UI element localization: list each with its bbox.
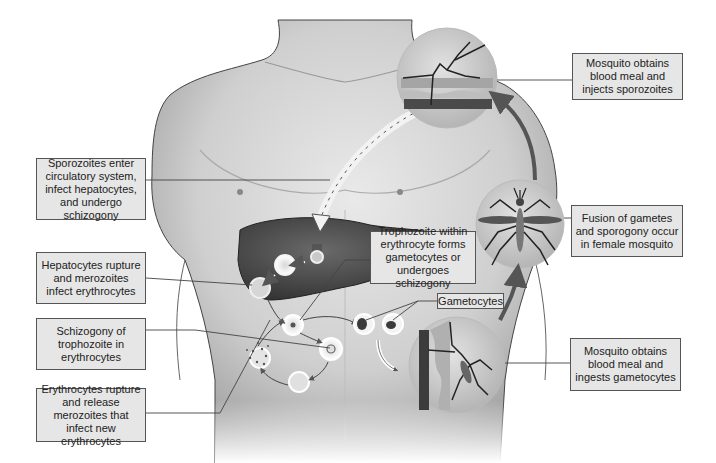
mosquito-feeding-ingest-circle [409, 317, 505, 413]
hepatocyte-rupturing [250, 278, 270, 298]
label-hepatocytes-rupture: Hepatocytes rupture and merozoites infec… [36, 252, 146, 304]
label-gametocytes: Gametocytes [437, 293, 504, 309]
label-text: Schizogony of trophozoite in erythrocyte… [40, 325, 142, 364]
label-text: Fusion of gametes and sporogony occur in… [575, 212, 679, 251]
label-text: Sporozoites enter circulatory system, in… [40, 157, 142, 222]
label-sporozoites-enter: Sporozoites enter circulatory system, in… [36, 158, 146, 220]
label-trophozoite-within: Trophozoite within erythrocyte forms gam… [370, 231, 476, 284]
label-text: Mosquito obtains blood meal and injects … [576, 57, 679, 96]
label-erythrocytes-rupture: Erythrocytes rupture and release merozoi… [36, 388, 146, 442]
label-text: Hepatocytes rupture and merozoites infec… [40, 259, 142, 298]
hepatocyte-infected [311, 251, 323, 263]
label-text: Trophozoite within erythrocyte forms gam… [374, 225, 472, 290]
label-text: Gametocytes [438, 295, 503, 308]
mosquito-body-circle [476, 180, 564, 268]
label-mosquito-ingests: Mosquito obtains blood meal and ingests … [570, 338, 681, 391]
hepatocyte-schizont [275, 255, 295, 275]
label-fusion-gametes: Fusion of gametes and sporogony occur in… [571, 205, 683, 257]
label-mosquito-injects: Mosquito obtains blood meal and injects … [572, 53, 683, 100]
malaria-life-cycle-diagram: Sporozoites enter circulatory system, in… [0, 0, 716, 463]
label-text: Erythrocytes rupture and release merozoi… [40, 383, 142, 448]
mosquito-feeding-inject-circle [397, 28, 497, 128]
label-schizogony-trophozoite: Schizogony of trophozoite in erythrocyte… [36, 318, 146, 370]
label-text: Mosquito obtains blood meal and ingests … [574, 345, 677, 384]
